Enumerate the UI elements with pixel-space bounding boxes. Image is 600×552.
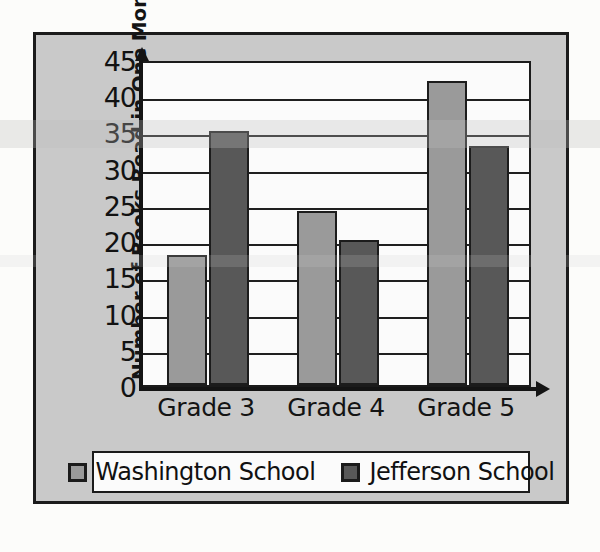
y-tick-label: 20	[104, 229, 136, 256]
y-axis-line	[139, 57, 143, 391]
y-tick-label: 25	[104, 192, 136, 219]
x-axis-line	[139, 387, 539, 391]
bar	[297, 211, 337, 385]
y-tick-label: 0	[120, 374, 136, 401]
y-tick-label: 15	[104, 265, 136, 292]
y-tick-label: 30	[104, 156, 136, 183]
chart-legend: Washington SchoolJefferson School	[92, 451, 530, 493]
legend-swatch-icon	[68, 463, 87, 482]
y-tick-label: 5	[120, 337, 136, 364]
bar-group	[143, 63, 529, 385]
x-axis-arrow-icon	[536, 381, 550, 397]
y-axis-arrow-icon	[135, 47, 149, 61]
y-tick-label: 10	[104, 301, 136, 328]
x-axis-tick-labels: Grade 3Grade 4Grade 5	[141, 393, 531, 433]
legend-label: Jefferson School	[369, 458, 554, 486]
y-axis-tick-labels: 051015202530354045	[84, 61, 136, 387]
x-tick-label: Grade 5	[417, 393, 514, 422]
legend-item: Washington School	[68, 458, 316, 486]
x-tick-label: Grade 4	[287, 393, 384, 422]
x-tick-label: Grade 3	[157, 393, 254, 422]
bar	[339, 240, 379, 385]
y-tick-label: 45	[104, 48, 136, 75]
legend-label: Washington School	[96, 458, 316, 486]
bar	[427, 81, 467, 385]
y-tick-label: 40	[104, 84, 136, 111]
bar	[469, 146, 509, 385]
bar	[167, 255, 207, 385]
legend-item: Jefferson School	[341, 458, 554, 486]
plot-area	[141, 61, 531, 387]
bar	[209, 131, 249, 385]
chart-figure: Number of Books Read in One Month 051015…	[33, 32, 569, 504]
legend-swatch-icon	[341, 463, 360, 482]
scanned-page: Number of Books Read in One Month 051015…	[0, 0, 600, 552]
y-tick-label: 35	[104, 120, 136, 147]
